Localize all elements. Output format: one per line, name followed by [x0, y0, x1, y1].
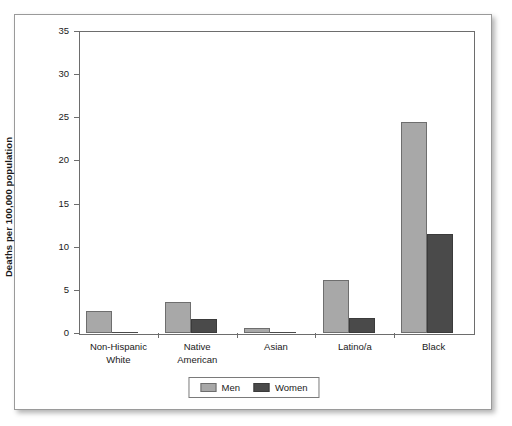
y-axis-title: Deaths per 100,000 population	[3, 107, 14, 307]
x-axis-category-label: NativeAmerican	[158, 341, 237, 366]
x-axis-category-label: Asian	[237, 341, 316, 354]
y-axis-tick-label: 30	[58, 68, 69, 79]
x-axis-label-line: White	[79, 354, 158, 367]
bar-group	[79, 31, 158, 333]
chart-legend: MenWomen	[188, 377, 319, 398]
bar-group	[158, 31, 237, 333]
legend-label-men: Men	[221, 382, 239, 393]
bar-women	[349, 318, 375, 333]
bar-women	[191, 319, 217, 333]
bar-group	[394, 31, 473, 333]
x-axis-category-label: Black	[394, 341, 473, 354]
x-axis-separators	[79, 333, 473, 339]
legend-swatch-women	[254, 383, 270, 392]
x-axis-label-line: Latino/a	[315, 341, 394, 354]
x-axis-category-label: Non-HispanicWhite	[79, 341, 158, 366]
legend-entry-men: Men	[200, 382, 239, 393]
y-axis-tick-label: 5	[64, 284, 69, 295]
y-axis-tick-label: 20	[58, 154, 69, 165]
legend-swatch-men	[200, 383, 216, 392]
y-axis-tick-label: 35	[58, 25, 69, 36]
x-axis-separator	[158, 333, 159, 338]
x-axis-label-line: Black	[394, 341, 473, 354]
bar-women	[427, 234, 453, 333]
bars-layer	[79, 31, 473, 333]
x-axis-label-line: Non-Hispanic	[79, 341, 158, 354]
legend-label-women: Women	[275, 382, 308, 393]
legend-entry-women: Women	[254, 382, 308, 393]
bar-men	[401, 122, 427, 333]
bar-group	[315, 31, 394, 333]
bar-men	[86, 311, 112, 333]
x-axis-separator	[237, 333, 238, 338]
y-axis-tick-label: 25	[58, 111, 69, 122]
x-axis-label-line: Asian	[237, 341, 316, 354]
bar-group	[237, 31, 316, 333]
y-axis-tick-label: 10	[58, 241, 69, 252]
x-axis-category-label: Latino/a	[315, 341, 394, 354]
x-axis-separator	[315, 333, 316, 338]
figure-card: Deaths per 100,000 population 0510152025…	[14, 14, 492, 410]
x-axis-labels: Non-HispanicWhiteNativeAmericanAsianLati…	[79, 341, 473, 375]
x-axis-label-line: Native	[158, 341, 237, 354]
y-axis-tick-label: 15	[58, 198, 69, 209]
x-axis-separator	[394, 333, 395, 338]
bar-men	[165, 302, 191, 333]
bar-men	[323, 280, 349, 333]
y-axis-tick-label: 0	[64, 327, 69, 338]
bar-chart: Deaths per 100,000 population 0510152025…	[15, 15, 493, 411]
x-axis-label-line: American	[158, 354, 237, 367]
